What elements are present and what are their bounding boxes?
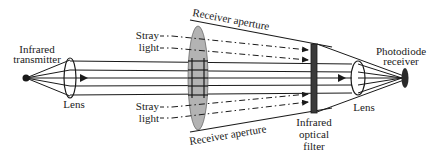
label-filter-line1: Infrared bbox=[296, 116, 332, 128]
label-lens-right: Lens bbox=[353, 101, 374, 113]
collimated-beam bbox=[70, 61, 352, 95]
label-stray-top-line1: Stray bbox=[136, 29, 160, 41]
label-stray-bottom-line2: light bbox=[139, 112, 159, 124]
label-receiver-line2: receiver bbox=[383, 55, 419, 67]
label-stray-top-line2: light bbox=[139, 41, 159, 53]
beam-arrow-left-icon bbox=[80, 74, 88, 82]
beam-arrow-right-icon bbox=[338, 74, 346, 82]
label-lens-left: Lens bbox=[63, 98, 84, 110]
label-filter-line2: optical bbox=[299, 128, 329, 140]
optical-link-diagram: Infrared transmitter Lens Stray light St… bbox=[0, 0, 438, 161]
infrared-transmitter bbox=[23, 60, 71, 96]
photodiode-receiver-icon bbox=[402, 68, 409, 88]
label-transmitter-line2: transmitter bbox=[13, 53, 61, 65]
label-filter-line3: filter bbox=[303, 140, 325, 152]
stray-light-short-ticks bbox=[160, 36, 172, 118]
infrared-optical-filter-icon bbox=[311, 44, 317, 113]
label-stray-bottom-line1: Stray bbox=[136, 100, 160, 112]
